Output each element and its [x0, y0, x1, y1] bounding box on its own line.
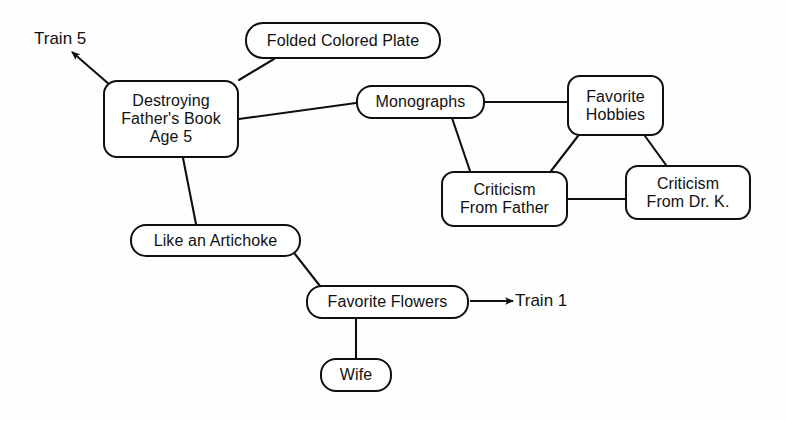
edge-hobbies-to-criticism-father — [551, 136, 578, 171]
edge-monographs-to-criticism-father — [452, 118, 470, 171]
arrow-train-1-label: Train 1 — [515, 291, 567, 311]
edge-hobbies-to-criticism-drk — [645, 136, 666, 165]
node-label-favorite-flowers: Favorite Flowers — [328, 293, 448, 311]
node-folded-colored-plate[interactable]: Folded Colored Plate — [245, 22, 441, 59]
edge-artichoke-to-flowers — [295, 254, 320, 286]
node-favorite-flowers[interactable]: Favorite Flowers — [306, 285, 469, 319]
edge-destroying-to-artichoke — [183, 158, 196, 224]
node-favorite-hobbies[interactable]: Favorite Hobbies — [567, 75, 664, 136]
node-label-favorite-hobbies: Favorite Hobbies — [586, 88, 645, 124]
arrow-train-5-label: Train 5 — [34, 29, 86, 49]
mindmap-diagram: Destroying Father's Book Age 5Folded Col… — [0, 0, 786, 421]
node-label-folded-colored-plate: Folded Colored Plate — [267, 32, 419, 50]
node-criticism-from-dr-k[interactable]: Criticism From Dr. K. — [625, 165, 751, 220]
node-monographs[interactable]: Monographs — [356, 85, 485, 119]
node-label-criticism-from-dr-k: Criticism From Dr. K. — [647, 175, 730, 211]
node-wife[interactable]: Wife — [320, 358, 392, 392]
edge-destroying-to-monographs — [239, 103, 356, 119]
node-label-like-an-artichoke: Like an Artichoke — [154, 232, 278, 250]
arrow-train-5-line — [72, 52, 110, 85]
node-like-an-artichoke[interactable]: Like an Artichoke — [130, 224, 301, 257]
edge-destroying-to-folded-plate — [239, 59, 274, 80]
node-label-criticism-from-father: Criticism From Father — [460, 181, 549, 217]
node-criticism-from-father[interactable]: Criticism From Father — [441, 171, 568, 227]
node-label-wife: Wife — [340, 366, 372, 384]
node-destroying-fathers-book[interactable]: Destroying Father's Book Age 5 — [103, 80, 239, 158]
node-label-monographs: Monographs — [376, 93, 466, 111]
node-label-destroying-fathers-book: Destroying Father's Book Age 5 — [121, 92, 221, 146]
